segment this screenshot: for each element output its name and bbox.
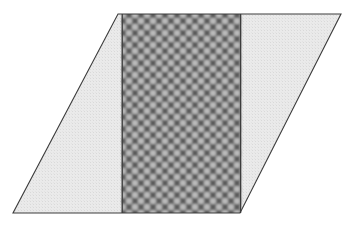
figure-canvas <box>0 0 354 226</box>
parallelogram-with-textured-band <box>0 0 354 226</box>
shaded-vertical-band <box>122 13 241 214</box>
